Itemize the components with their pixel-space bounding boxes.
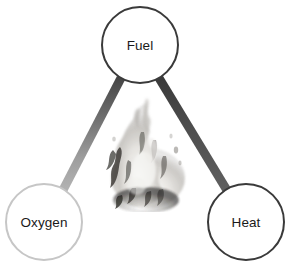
node-heat[interactable]: Heat <box>208 184 284 260</box>
oxygen-label: Oxygen <box>20 215 67 230</box>
node-oxygen[interactable]: Oxygen <box>6 184 82 260</box>
flame-base-shadow <box>113 187 179 213</box>
heat-label: Heat <box>232 215 261 230</box>
fire-triangle-diagram: Fuel Oxygen Heat <box>0 0 291 274</box>
flame-image <box>106 98 185 213</box>
fuel-label: Fuel <box>127 38 154 53</box>
fire-triangle-canvas: Fuel Oxygen Heat <box>0 0 291 274</box>
node-fuel[interactable]: Fuel <box>102 7 178 83</box>
